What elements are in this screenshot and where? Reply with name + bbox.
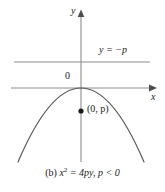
caption-equation-rest: = 4py — [67, 167, 93, 178]
parabola-plot — [0, 0, 165, 170]
y-axis-arrow-icon — [78, 10, 85, 18]
directrix-label: y = −p — [99, 45, 127, 55]
figure-caption: (b) x2 = 4py, p < 0 — [0, 167, 165, 178]
x-axis-label: x — [151, 92, 155, 102]
focus-label: (0, p) — [87, 104, 109, 114]
focus-point — [78, 108, 83, 113]
y-axis-label: y — [71, 6, 75, 16]
caption-prefix: (b) — [45, 167, 57, 178]
caption-condition: , p < 0 — [93, 167, 120, 178]
parabola-figure: y x 0 y = −p (0, p) (b) x2 = 4py, p < 0 — [0, 0, 165, 192]
origin-label: 0 — [65, 71, 70, 81]
